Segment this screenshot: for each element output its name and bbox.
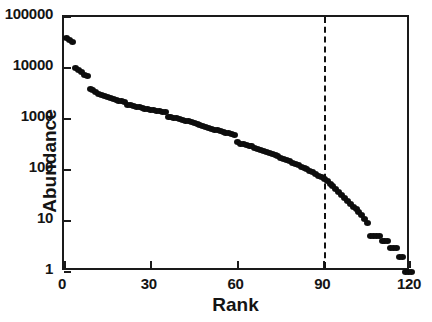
data-point (384, 238, 391, 244)
y-tick-label: 1 (0, 260, 53, 277)
data-point (84, 73, 91, 79)
y-tick-mark (64, 118, 71, 120)
y-tick-mark (64, 271, 71, 273)
data-point (364, 220, 371, 226)
x-tick-mark (150, 261, 152, 268)
x-tick-label: 0 (58, 275, 66, 292)
y-tick-mark (64, 220, 71, 222)
y-tick-mark (64, 169, 71, 171)
x-tick-label: 90 (314, 275, 330, 292)
x-tick-label: 30 (141, 275, 157, 292)
y-tick-mark (64, 67, 71, 69)
rank-90-reference-line (324, 17, 326, 268)
y-tick-mark (64, 16, 71, 18)
rank-abundance-figure: Abundance 110100100010000100000 03060901… (0, 0, 432, 322)
data-point (69, 39, 76, 45)
y-tick-label: 10000 (0, 56, 53, 73)
x-axis-title: Rank (62, 294, 409, 316)
x-tick-mark (64, 261, 66, 268)
data-point (393, 245, 400, 251)
x-tick-label: 120 (397, 275, 421, 292)
data-point (399, 254, 406, 260)
data-point (231, 132, 238, 138)
y-tick-label: 100 (0, 158, 53, 175)
y-tick-label: 10 (0, 209, 53, 226)
plot-area (62, 15, 409, 270)
x-tick-label: 60 (227, 275, 243, 292)
x-tick-mark (409, 261, 411, 268)
data-point (408, 269, 415, 275)
y-tick-label: 100000 (0, 5, 53, 22)
y-tick-label: 1000 (0, 107, 53, 124)
x-tick-mark (237, 261, 239, 268)
